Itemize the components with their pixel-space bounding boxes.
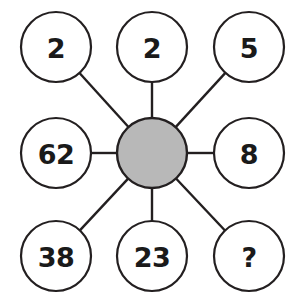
node-middle-right[interactable]: 8 (214, 118, 284, 188)
node-label-top-left: 2 (47, 33, 65, 64)
puzzle-diagram: 2256283823? (0, 0, 303, 304)
hub-and-spoke-svg: 2256283823? (0, 0, 303, 304)
spoke-line-top-left (79, 72, 129, 128)
node-top-center[interactable]: 2 (117, 12, 187, 82)
node-label-bottom-center: 23 (134, 242, 171, 273)
spoke-line-top-right (175, 72, 226, 128)
node-top-left[interactable]: 2 (21, 12, 91, 82)
node-bottom-left[interactable]: 38 (21, 221, 91, 291)
node-label-middle-left: 62 (38, 139, 75, 170)
spoke-line-bottom-left (79, 178, 129, 231)
node-label-top-right: 5 (240, 33, 258, 64)
hub-circle[interactable] (117, 118, 187, 188)
spoke-line-bottom-right (175, 178, 225, 231)
node-top-right[interactable]: 5 (214, 12, 284, 82)
hub-group (117, 118, 187, 188)
node-label-middle-right: 8 (240, 139, 258, 170)
node-label-top-center: 2 (143, 33, 161, 64)
node-label-bottom-left: 38 (38, 242, 75, 273)
node-bottom-right[interactable]: ? (214, 221, 284, 291)
node-bottom-center[interactable]: 23 (117, 221, 187, 291)
node-label-bottom-right: ? (241, 242, 256, 273)
node-middle-left[interactable]: 62 (21, 118, 91, 188)
